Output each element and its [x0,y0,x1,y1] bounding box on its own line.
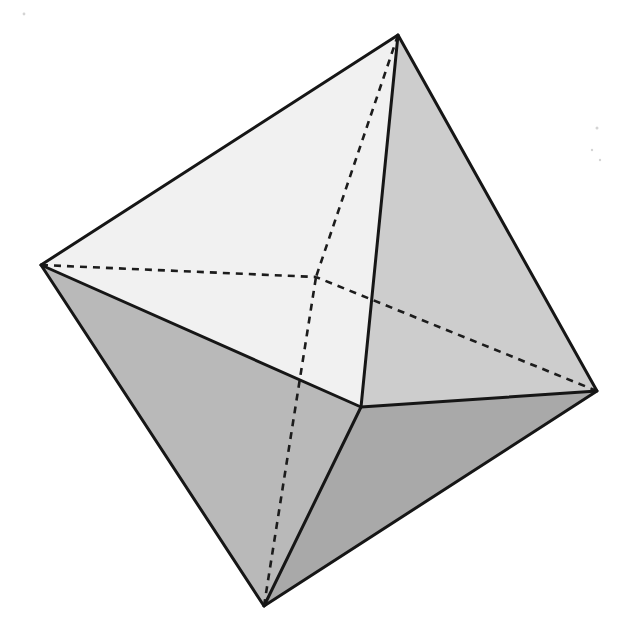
diagram-canvas [0,0,640,638]
octahedron-figure [0,0,640,638]
face-upper-right [361,35,597,407]
